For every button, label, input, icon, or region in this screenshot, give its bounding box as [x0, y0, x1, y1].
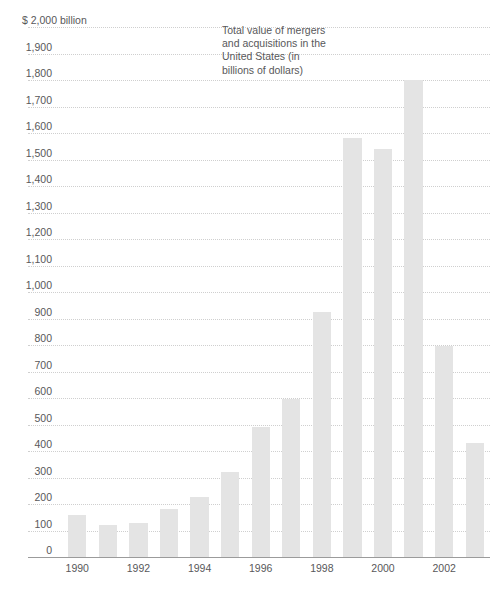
- y-axis-tick-label: 200: [0, 491, 52, 503]
- bar-1999: [343, 138, 361, 557]
- x-axis-line: [28, 557, 490, 558]
- bar-1998: [313, 312, 331, 557]
- bar-1991: [99, 525, 117, 557]
- y-axis-tick-label: 1,000: [0, 279, 52, 291]
- bar-1997: [282, 399, 300, 557]
- x-axis-tick-label: 2000: [353, 562, 413, 574]
- y-axis-tick-label: 1,700: [0, 94, 52, 106]
- x-axis-tick-label: 1998: [292, 562, 352, 574]
- y-axis-tick-label: 600: [0, 385, 52, 397]
- y-axis-tick-label: 1,500: [0, 147, 52, 159]
- y-axis-tick-label: 500: [0, 412, 52, 424]
- y-axis-tick-label: 900: [0, 306, 52, 318]
- y-axis-tick-label: 100: [0, 518, 52, 530]
- bar-2002: [435, 346, 453, 557]
- y-axis-tick-label: 1,400: [0, 173, 52, 185]
- bar-1993: [160, 509, 178, 557]
- x-axis-tick-label: 2002: [414, 562, 474, 574]
- y-axis-tick-label: 1,800: [0, 67, 52, 79]
- bar-1994: [190, 497, 208, 557]
- bar-1992: [129, 523, 147, 557]
- x-axis-tick-label: 1994: [170, 562, 230, 574]
- y-axis-tick-label: 800: [0, 332, 52, 344]
- x-axis-tick-label: 1992: [108, 562, 168, 574]
- y-axis-tick-label: 700: [0, 359, 52, 371]
- bar-2000: [374, 149, 392, 557]
- bar-1990: [68, 515, 86, 557]
- y-axis-tick-label: 300: [0, 465, 52, 477]
- y-axis-tick-label: 1,100: [0, 253, 52, 265]
- x-axis-tick-label: 1990: [47, 562, 107, 574]
- y-axis-tick-label: $ 2,000 billion: [22, 14, 162, 26]
- y-axis-tick-label: 1,900: [0, 41, 52, 53]
- chart-container: $ 2,000 billion1,9001,8001,7001,6001,500…: [0, 0, 496, 591]
- y-axis-tick-label: 0: [0, 544, 52, 556]
- y-axis-tick-label: 400: [0, 438, 52, 450]
- x-axis-tick-label: 1996: [231, 562, 291, 574]
- y-axis-tick-label: 1,300: [0, 200, 52, 212]
- bar-1995: [221, 472, 239, 557]
- bar-1996: [252, 427, 270, 557]
- y-axis-tick-label: 1,200: [0, 226, 52, 238]
- y-axis-tick-label: 1,600: [0, 120, 52, 132]
- bar-2003: [466, 443, 484, 557]
- bar-2001: [404, 80, 422, 557]
- bars-layer: [62, 27, 490, 557]
